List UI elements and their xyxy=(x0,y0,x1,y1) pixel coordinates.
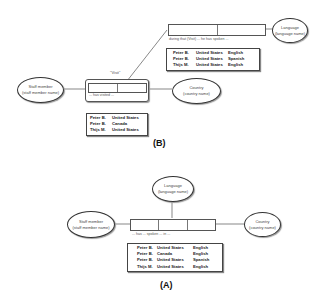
entity-subtitle: (country name) xyxy=(249,225,276,231)
entity-subtitle: (staff member name) xyxy=(72,225,109,231)
role-box xyxy=(89,84,118,92)
entity-subtitle: (staff member name) xyxy=(22,90,59,96)
entity-language-b: Language (language name) xyxy=(272,18,308,43)
role-box xyxy=(218,25,266,35)
entity-country-b: Country (country name) xyxy=(172,78,221,104)
population-table-a: Peter B.United StatesEnglish Peter B.Can… xyxy=(127,243,223,272)
table-row: Thijs M.United States xyxy=(90,127,144,133)
fact-caption-has-spoken: during that (Visit) ... he has spoken ..… xyxy=(169,37,228,41)
role-box xyxy=(188,220,215,230)
role-box xyxy=(131,220,159,230)
role-box xyxy=(169,25,218,35)
figure-label-b: (B) xyxy=(153,138,166,148)
fact-caption-spoken-in: ... has ... spoken ... in ... xyxy=(132,232,170,236)
figure-label-a: (A) xyxy=(160,280,173,290)
objectification-label: "Visit" xyxy=(110,70,120,75)
entity-subtitle: (language name) xyxy=(275,31,305,37)
entity-staff-member-b: Staff member (staff member name) xyxy=(17,77,64,103)
table-row: Thijs M.United StatesEnglish xyxy=(170,62,256,68)
role-box xyxy=(159,220,187,230)
entity-country-a: Country (country name) xyxy=(244,212,281,237)
entity-subtitle: (country name) xyxy=(183,91,210,97)
role-box xyxy=(118,84,146,92)
population-table-visits: Peter B.United States Peter B.Canada Thi… xyxy=(86,113,148,136)
fact-caption-has-visited: ... has visited ... xyxy=(89,93,114,97)
table-row: Thijs M.United StatesEnglish xyxy=(131,264,219,270)
entity-staff-member-a: Staff member (staff member name) xyxy=(67,211,115,238)
fact-type-has-visited xyxy=(88,83,147,93)
entity-subtitle: (language name) xyxy=(158,189,188,195)
fact-type-spoken-in xyxy=(130,219,216,231)
population-table-spoken: Peter B.United StatesEnglish Peter B.Uni… xyxy=(166,48,260,71)
fact-type-has-spoken xyxy=(168,24,266,36)
entity-language-a: Language (language name) xyxy=(152,176,194,202)
